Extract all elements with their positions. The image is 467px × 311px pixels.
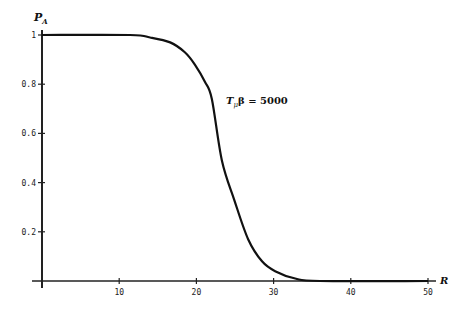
- x-tick-label: 40: [346, 288, 356, 297]
- x-tick-label: 50: [423, 288, 433, 297]
- x-axis-label: R: [439, 275, 448, 286]
- curve-annotation: Tμβ = 5000: [226, 95, 288, 109]
- x-tick-label: 20: [192, 288, 202, 297]
- y-tick-label: 0.4: [22, 179, 37, 188]
- y-axis-label: PA: [33, 11, 48, 26]
- x-tick-label: 30: [269, 288, 279, 297]
- x-tick-label: 10: [114, 288, 124, 297]
- y-tick-label: 0.8: [22, 80, 37, 89]
- y-tick-label: 0.2: [22, 228, 37, 237]
- y-tick-label: 1: [31, 31, 36, 40]
- chart: 10203040500.20.40.60.81 PA R Tμβ = 5000: [0, 0, 467, 311]
- axes: 10203040500.20.40.60.81: [22, 30, 436, 297]
- y-tick-label: 0.6: [22, 129, 37, 138]
- data-curve: [42, 35, 428, 281]
- probability-curve: [42, 35, 428, 281]
